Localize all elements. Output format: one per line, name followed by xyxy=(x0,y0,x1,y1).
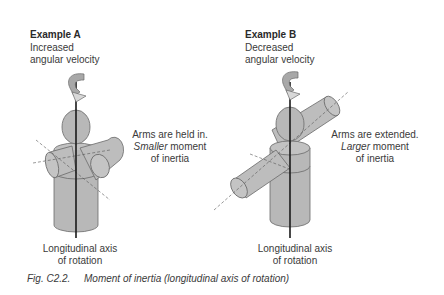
figure-caption: Fig. C2.2.Moment of inertia (longitudina… xyxy=(27,273,289,284)
figure-a-rotation-arrow-icon xyxy=(69,74,86,102)
figure-a xyxy=(33,74,124,238)
figure-b-rotation-arrow-icon xyxy=(283,72,300,100)
figure-b xyxy=(214,72,348,238)
figure-caption-label: Fig. C2.2. xyxy=(27,273,84,284)
figure-caption-text: Moment of inertia (longitudinal axis of … xyxy=(84,273,289,284)
moment-of-inertia-diagram xyxy=(0,0,444,295)
